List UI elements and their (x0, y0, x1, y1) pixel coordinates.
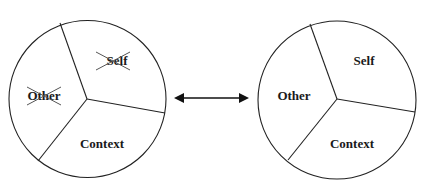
left-divider-top (60, 23, 87, 99)
right-divider-top (310, 24, 337, 99)
left-circle: Self Other Context (9, 21, 166, 178)
left-context-label: Context (80, 136, 125, 151)
right-self-label: Self (354, 53, 376, 68)
right-context-label: Context (330, 136, 375, 151)
left-segment-self: Self (96, 52, 130, 70)
right-circle: Self Other Context (258, 21, 416, 179)
left-divider-right (87, 99, 165, 113)
right-other-label: Other (277, 88, 310, 103)
left-segment-other: Other (27, 87, 61, 105)
diagram-canvas: Self Other Context Self Other Context (0, 0, 424, 186)
right-divider-right (337, 99, 415, 112)
left-divider-bottom (38, 99, 87, 161)
